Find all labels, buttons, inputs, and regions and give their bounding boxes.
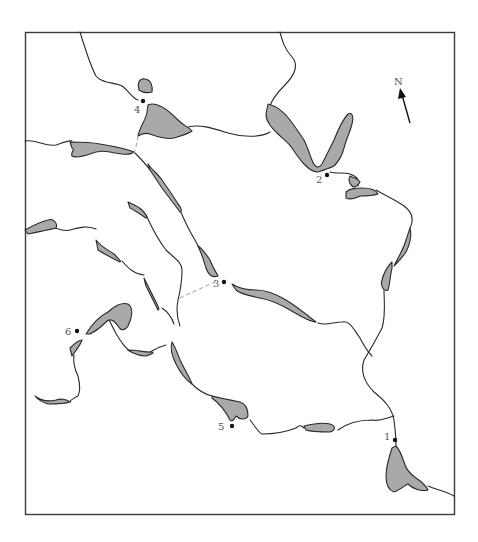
river-6-south: [70, 355, 80, 402]
connector-4: [134, 136, 138, 153]
lake-1: [386, 446, 428, 492]
site-4: 4: [134, 99, 145, 115]
river-cross-top: [188, 126, 270, 136]
lake-west-top: [70, 142, 134, 157]
north-arrow-icon: [402, 95, 410, 123]
lake-3-east: [232, 284, 316, 322]
lake-west-bottom: [35, 396, 70, 404]
lake-south-west-1: [128, 350, 153, 356]
lake-south-west-2: [171, 342, 192, 384]
river-west-mid-link: [162, 308, 174, 324]
rivers: [25, 0, 454, 496]
lake-2-small: [349, 176, 360, 187]
site-label: 4: [134, 104, 140, 115]
site-label: 1: [384, 431, 390, 442]
site-marker: [141, 99, 145, 103]
site-marker: [393, 438, 397, 442]
site-6: 6: [65, 326, 79, 337]
river-west-top: [25, 141, 72, 146]
lake-diagonal-upper: [148, 164, 181, 212]
lake-west-mid-3: [144, 278, 159, 310]
lake-west-mid-1: [25, 220, 57, 234]
site-marker: [325, 173, 329, 177]
river-5-approach: [192, 384, 212, 396]
lake-inner-small: [128, 202, 147, 218]
river-3-east-tail: [318, 322, 372, 356]
river-east-bank: [362, 290, 396, 446]
lake-4-main: [138, 104, 192, 139]
river-2-south-east: [330, 172, 412, 228]
site-3: 3: [213, 278, 226, 289]
lake-west-mid-2: [96, 240, 121, 262]
river-main-diagonal: [135, 153, 202, 254]
map: 1 2 3 4 5 6 N: [0, 0, 478, 542]
site-label: 5: [218, 421, 224, 432]
lake-south-mid: [304, 423, 335, 432]
river-mid-south: [150, 345, 166, 352]
connector-3: [180, 282, 216, 298]
lake-6-main: [86, 303, 132, 334]
lake-2-west-arm: [266, 104, 353, 172]
lake-2-east: [346, 188, 378, 199]
river-north-west: [80, 32, 138, 100]
north-arrow-head-icon: [398, 88, 406, 99]
site-5: 5: [218, 421, 234, 432]
site-2: 2: [316, 173, 329, 185]
river-west-mid: [50, 227, 144, 275]
north-label: N: [394, 76, 403, 87]
river-north-east-upper: [270, 32, 296, 106]
river-1-south-east: [428, 486, 454, 496]
lake-east-lower: [381, 262, 392, 290]
site-marker: [75, 329, 79, 333]
lakes: [25, 79, 428, 492]
lake-4-north: [138, 79, 152, 93]
site-marker: [222, 280, 226, 284]
site-label: 2: [316, 174, 322, 185]
site-marker: [230, 424, 234, 428]
lake-6-south: [70, 340, 82, 356]
site-label: 3: [213, 278, 219, 289]
lake-3-west: [198, 246, 218, 277]
lake-east-upper: [394, 228, 411, 266]
north-arrow: N: [394, 76, 410, 123]
site-label: 6: [65, 326, 71, 337]
lake-5: [212, 396, 248, 421]
